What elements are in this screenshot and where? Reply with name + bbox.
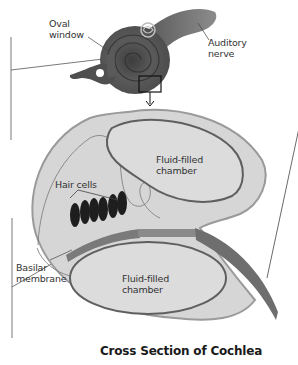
hair-cells-label-text: Hair cells (55, 179, 97, 190)
oval-window-label-line2: window (49, 30, 84, 41)
lower-chamber-label: Fluid-filled chamber (122, 274, 169, 295)
auditory-nerve-label-line2: nerve (208, 49, 247, 60)
basilar-membrane-label: Basilar membrane (16, 263, 66, 284)
diagram-title: Cross Section of Cochlea (100, 344, 262, 358)
lower-chamber-label-line1: Fluid-filled (122, 274, 169, 285)
upper-chamber-label-line2: chamber (156, 166, 203, 177)
basilar-label-line1: Basilar (16, 263, 66, 274)
lower-chamber-label-line2: chamber (122, 285, 169, 296)
auditory-nerve-label: Auditory nerve (208, 38, 247, 59)
upper-chamber-label-line1: Fluid-filled (156, 155, 203, 166)
oval-window-stapes (70, 52, 116, 84)
cochlea-diagram (0, 0, 298, 365)
oval-window-label: Oval window (49, 19, 84, 40)
auditory-nerve-label-line1: Auditory (208, 38, 247, 49)
basilar-label-line2: membrane (16, 274, 66, 285)
basilar-membrane-extension (138, 229, 198, 237)
right-pointer-line (267, 128, 298, 278)
upper-chamber-label: Fluid-filled chamber (156, 155, 203, 176)
oval-window-label-line1: Oval (49, 19, 84, 30)
hair-cells-label: Hair cells (55, 180, 97, 191)
